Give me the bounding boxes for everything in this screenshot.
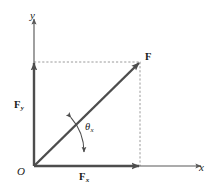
vector-fx-label: Fx bbox=[79, 172, 89, 184]
vector-f-symbol: F bbox=[145, 51, 151, 62]
x-axis-label: x bbox=[199, 162, 204, 173]
angle-theta-subscript: x bbox=[90, 126, 93, 134]
origin-label: O bbox=[17, 166, 25, 177]
vector-f-resultant bbox=[34, 63, 139, 166]
vector-fx-subscript: x bbox=[86, 176, 90, 184]
vector-fx-symbol: F bbox=[79, 171, 85, 182]
y-axis-label: y bbox=[30, 10, 35, 21]
vector-f-label: F bbox=[145, 52, 151, 63]
vector-fy-symbol: F bbox=[14, 99, 20, 110]
vector-diagram-canvas bbox=[0, 0, 215, 195]
vector-diagram: y x O F Fy Fx θx bbox=[0, 0, 215, 195]
vector-fy-label: Fy bbox=[14, 100, 24, 112]
vector-fy-subscript: y bbox=[21, 104, 24, 112]
angle-theta-x-label: θx bbox=[85, 122, 94, 134]
